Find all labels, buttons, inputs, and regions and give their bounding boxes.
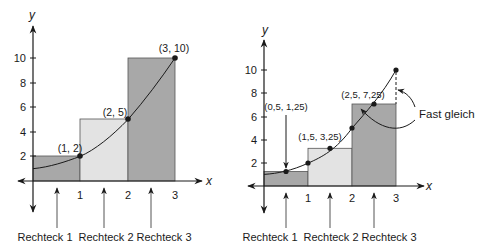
right-chart: y x 2 4 6 8 10 1 2 3 (0,5, 1,25) (1,5, 3… (242, 23, 474, 243)
left-y-axis-label: y (28, 8, 36, 22)
right-point-x1 (305, 160, 310, 165)
left-rect-2 (80, 119, 128, 181)
right-point-label-1: (0,5, 1,25) (264, 101, 307, 112)
right-y-tick-4: 4 (251, 134, 257, 146)
right-y-axis-label: y (261, 23, 269, 37)
left-y-tick-10: 10 (14, 52, 26, 64)
left-x-tick-3: 3 (172, 189, 178, 201)
left-point-label-1: (1, 2) (58, 142, 83, 154)
right-point-midpoint-2 (327, 146, 332, 151)
right-x-axis-label: x (425, 179, 433, 193)
left-y-tick-8: 8 (20, 77, 26, 89)
right-x-tick-1: 1 (305, 192, 311, 204)
left-chart: y x 2 4 6 8 10 1 2 3 (1, 2) (2, 5) (3, 1… (14, 8, 213, 243)
riemann-sum-diagram: y x 2 4 6 8 10 1 2 3 (1, 2) (2, 5) (3, 1… (0, 0, 481, 252)
right-y-tick-6: 6 (251, 111, 257, 123)
right-point-midpoint-1 (283, 169, 288, 174)
right-rect-label-1: Rechteck 1 (242, 231, 297, 243)
right-point-x3 (393, 67, 398, 72)
right-rect-2 (308, 148, 352, 186)
left-x-tick-1: 1 (77, 189, 83, 201)
right-point-label-3: (2,5, 7,25) (341, 89, 384, 100)
left-y-tick-2: 2 (20, 150, 26, 162)
left-rect-label-3: Rechteck 3 (136, 231, 191, 243)
right-x-tick-2: 2 (349, 192, 355, 204)
right-y-tick-2: 2 (251, 157, 257, 169)
right-point-label-2: (1,5, 3,25) (298, 131, 341, 142)
right-rect-label-3: Rechteck 3 (361, 231, 416, 243)
left-point-3 (172, 55, 178, 61)
annotation-fast-gleich: Fast gleich (419, 108, 475, 120)
left-rect-1 (33, 156, 80, 181)
right-point-midpoint-3 (371, 101, 376, 106)
right-point-x2 (349, 125, 354, 130)
left-rect-label-1: Rechteck 1 (17, 231, 72, 243)
right-y-tick-8: 8 (251, 87, 257, 99)
left-point-1 (77, 153, 83, 159)
right-x-tick-3: 3 (393, 192, 399, 204)
left-rect-label-2: Rechteck 2 (78, 231, 133, 243)
right-rect-label-2: Rechteck 2 (303, 231, 358, 243)
left-point-label-2: (2, 5) (103, 106, 128, 118)
left-point-label-3: (3, 10) (159, 42, 189, 54)
right-rect-3 (352, 104, 396, 186)
left-x-tick-2: 2 (125, 189, 131, 201)
annotation-arrow-top (398, 90, 415, 107)
right-y-tick-10: 10 (245, 64, 257, 76)
left-x-axis-label: x (205, 174, 213, 188)
left-y-tick-4: 4 (20, 126, 26, 138)
left-rect-3 (128, 58, 175, 181)
left-y-tick-6: 6 (20, 101, 26, 113)
